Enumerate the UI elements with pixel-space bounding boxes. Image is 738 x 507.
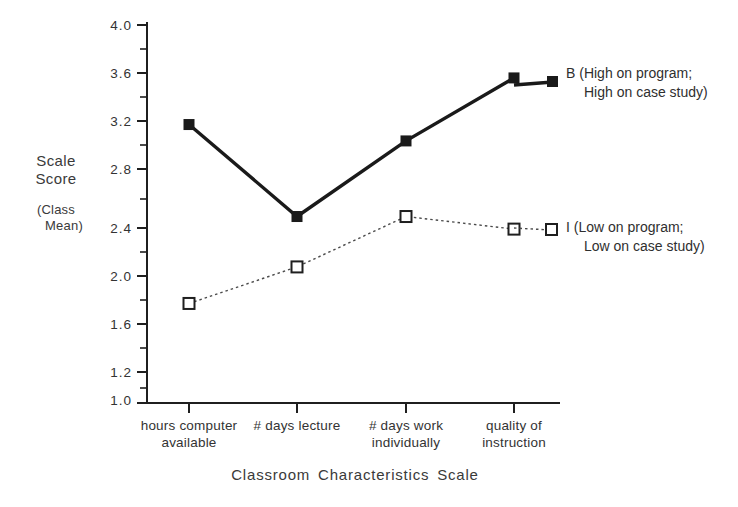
data-point-i-3: [509, 224, 520, 235]
series-b-line: [189, 78, 514, 217]
data-point-i-1: [292, 261, 303, 272]
x-tick-label-line-1: hours computer: [124, 418, 254, 435]
y-major-ticks: [137, 25, 147, 403]
x-tick-label-days-work-individually: # days work individually: [345, 418, 467, 452]
data-point-i-2: [401, 211, 412, 222]
series-i-markers: [184, 211, 520, 309]
series-b-markers: [184, 72, 520, 222]
x-axis-title: Classroom Characteristics Scale: [140, 466, 570, 483]
line-chart-figure: Scale Score (Class Mean) 4.0 3.6 3.2 2.8…: [0, 0, 738, 507]
x-tick-label-days-lecture: # days lecture: [237, 418, 357, 435]
legend-i-line-1: I (Low on program;: [566, 218, 705, 237]
x-tick-label-line-1: # days work: [345, 418, 467, 435]
series-i-line: [189, 217, 514, 304]
data-point-b-3: [509, 72, 520, 83]
data-point-b-1: [292, 211, 303, 222]
y-minor-ticks: [140, 49, 147, 388]
legend-entry-i: I (Low on program; Low on case study): [566, 218, 705, 256]
x-ticks: [189, 403, 514, 413]
data-point-b-0: [184, 119, 195, 130]
legend-i-line-2: Low on case study): [566, 237, 705, 256]
data-point-b-2: [401, 135, 412, 146]
legend-b-marker-filled-square-icon: [547, 76, 558, 87]
x-tick-label-quality-of-instruction: quality of instruction: [456, 418, 572, 452]
legend-b-line-2: High on case study): [566, 83, 708, 102]
x-tick-label-line-2: instruction: [456, 435, 572, 452]
legend-entry-b: B (High on program; High on case study): [566, 64, 708, 102]
data-point-i-0: [184, 298, 195, 309]
x-tick-label-line-2: individually: [345, 435, 467, 452]
legend-b-line-1: B (High on program;: [566, 64, 708, 83]
x-tick-label-line-2: available: [124, 435, 254, 452]
x-tick-label-line-1: quality of: [456, 418, 572, 435]
x-tick-label-hours-computer-available: hours computer available: [124, 418, 254, 452]
legend-i-marker-open-square-icon: [546, 224, 557, 235]
x-tick-label-line-1: # days lecture: [237, 418, 357, 435]
